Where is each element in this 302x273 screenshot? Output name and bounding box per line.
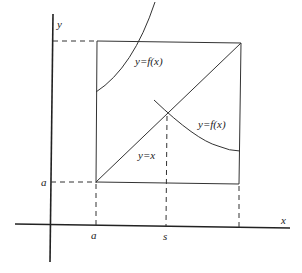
box-top: [97, 41, 241, 43]
x-axis-label: x: [281, 215, 286, 226]
x-tick-s-label: s: [163, 231, 167, 242]
diagonal-line: [96, 43, 241, 182]
curve-upper: [96, 2, 155, 92]
curve-upper-label: y=f(x): [135, 56, 163, 67]
diagram-canvas: [0, 0, 302, 273]
x-tick-a-label: a: [91, 230, 97, 241]
box-left: [96, 41, 97, 183]
dashed-s-vertical: [166, 116, 167, 226]
box-right: [239, 43, 241, 184]
y-axis-label: y: [57, 19, 62, 30]
box-bottom: [96, 182, 239, 184]
x-axis: [15, 224, 290, 228]
curve-lower-label: y=f(x): [198, 119, 226, 130]
diagonal-label: y=x: [138, 150, 155, 161]
y-tick-a-label: a: [41, 177, 47, 188]
